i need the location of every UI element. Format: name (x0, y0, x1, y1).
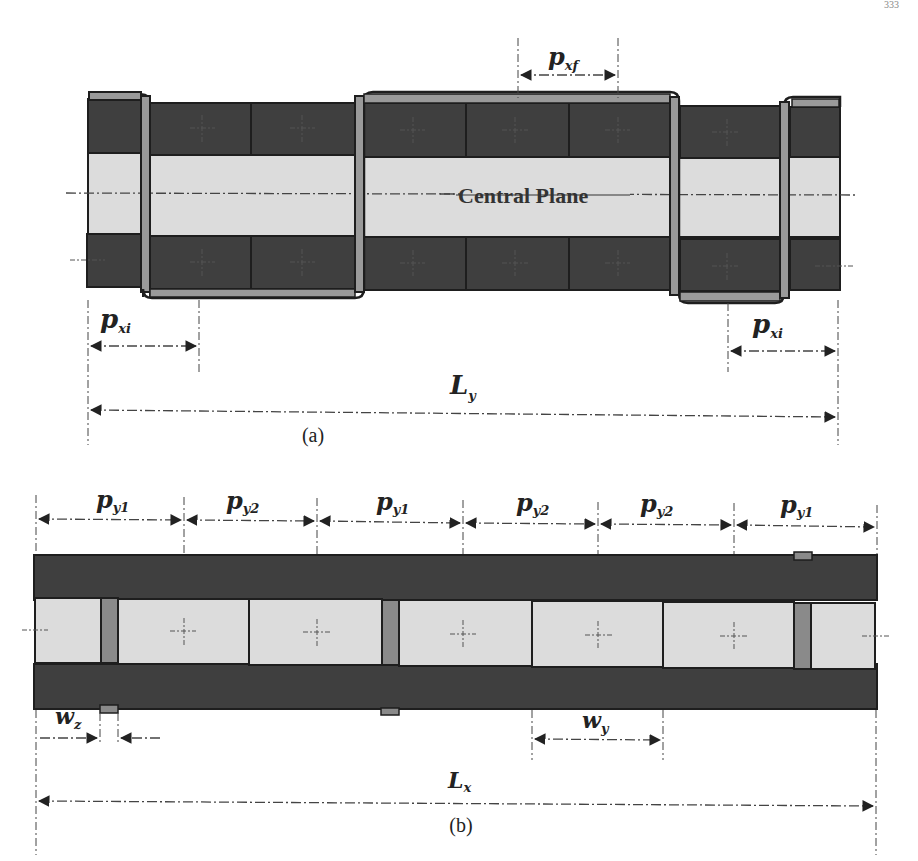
strap-tab-1 (100, 705, 118, 713)
figure-b: py1 py2 py1 py2 py2 py1 wz wy Lx (b) (22, 485, 890, 855)
wy-label: wy (582, 707, 610, 736)
wy-dimension (535, 739, 660, 740)
pitch-label-1: py1 (96, 485, 129, 515)
pitch-label-4: py2 (516, 488, 549, 518)
pitch-label-6: py1 (780, 490, 813, 520)
pitch-label-5: py2 (640, 489, 673, 519)
pxf-label: pxf (548, 42, 581, 73)
ly-dimension (91, 410, 835, 417)
pitch-label-3: py1 (376, 487, 409, 517)
top-flange-row (88, 99, 840, 158)
ly-label: Ly (449, 370, 477, 403)
strap-3 (794, 603, 811, 669)
bottom-flange (34, 664, 877, 709)
top-flange (34, 555, 877, 600)
page-number: 333 (884, 0, 899, 10)
pxi-left-label: pxi (100, 304, 131, 336)
figure-b-caption: (b) (449, 814, 472, 837)
lx-dimension (39, 801, 873, 806)
pxi-right-label: pxi (752, 309, 783, 341)
strap-2 (382, 600, 399, 665)
strap-1 (101, 598, 118, 663)
figure-a-caption: (a) (302, 424, 324, 447)
stiffened-panel-diagram: 333 (0, 0, 918, 861)
strap-tab-3 (794, 552, 812, 560)
bottom-flange-row (87, 234, 840, 291)
strap-tab-2 (381, 708, 399, 715)
pitch-label-2: py2 (226, 486, 259, 516)
lx-label: Lx (447, 767, 471, 795)
figure-a: Central Plane pxf pxi (66, 38, 855, 447)
